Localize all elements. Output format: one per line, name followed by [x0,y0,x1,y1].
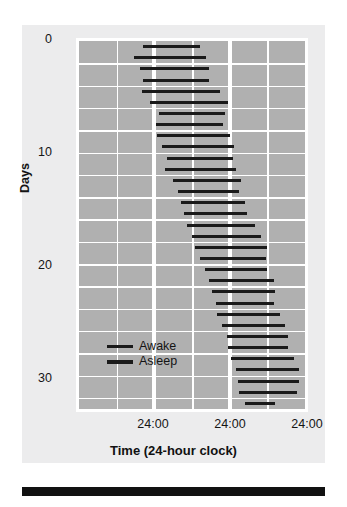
y-axis-label: Days [18,163,32,193]
sleep-bar [157,134,229,137]
y-tick-20: 20 [22,259,52,272]
sleep-bar [200,257,266,260]
sleep-bar [167,157,233,160]
legend-item-awake: Awake [107,339,177,354]
sleep-bar [217,313,280,316]
legend-label-awake: Awake [139,340,176,353]
legend-label-asleep: Asleep [139,355,177,368]
sleep-bar [143,45,200,48]
sleep-bar [140,67,209,70]
sleep-bar [143,79,209,82]
x-axis-label: Time (24-hour clock) [22,443,325,458]
sleep-bar [216,302,274,305]
sleep-bar [195,246,267,249]
sleep-bar [150,101,228,104]
sleep-bar [187,224,254,227]
figure-panel: Days 0 10 20 30 Awake Asleep 24:00 24:00… [22,25,325,463]
x-tick-3: 24:00 [291,417,322,431]
legend-item-asleep: Asleep [107,354,177,369]
sleep-bar [181,201,245,204]
sleep-bar [245,402,275,405]
grid-line-vertical [267,41,269,409]
sleep-bar [184,212,247,215]
y-tick-10: 10 [22,146,52,159]
sleep-bar [231,357,294,360]
sleep-bar [222,324,285,327]
sleep-bar [173,179,240,182]
y-tick-0: 0 [22,33,52,46]
sleep-bar [156,123,223,126]
sleep-bar [165,168,236,171]
sleep-bar [162,145,234,148]
sleep-bar [239,391,297,394]
sleep-bar [209,279,273,282]
awake-line-icon [107,345,133,348]
sleep-bar [238,380,299,383]
sleep-bar [228,346,288,349]
sleep-bar [178,190,239,193]
actogram-plot-area: Awake Asleep [76,38,308,412]
x-tick-2: 24:00 [214,417,245,431]
sleep-bar [142,90,220,93]
sleep-bar [236,368,299,371]
asleep-line-icon [107,360,133,364]
sleep-bar [159,112,225,115]
legend: Awake Asleep [107,339,177,369]
sleep-bar [212,290,275,293]
footer-rule [22,487,325,496]
sleep-bar [205,268,268,271]
x-tick-1: 24:00 [137,417,168,431]
sleep-bar [134,56,206,59]
sleep-bar [192,235,261,238]
sleep-bar [227,335,288,338]
y-tick-30: 30 [22,372,52,385]
